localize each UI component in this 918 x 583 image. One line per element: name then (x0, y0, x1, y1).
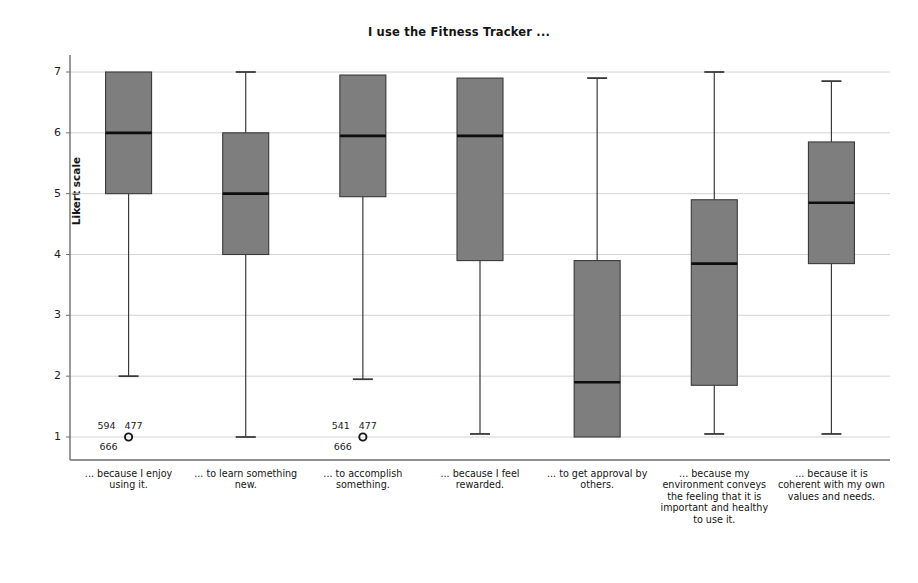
box-iqr-rect (457, 78, 503, 261)
outlier-label: 477 (125, 420, 143, 431)
y-tick-label: 2 (54, 369, 61, 382)
y-tick-label: 4 (54, 248, 61, 261)
x-category-label: ... because my environment conveys the f… (656, 468, 773, 525)
y-tick-label: 5 (54, 187, 61, 200)
outlier-label: 541 (332, 420, 350, 431)
y-tick-label: 3 (54, 308, 61, 321)
x-category-label: ... because I enjoy using it. (70, 468, 187, 491)
x-category-label: ... because I feel rewarded. (421, 468, 538, 491)
boxplot-box[interactable] (457, 78, 503, 434)
outlier-label: 666 (100, 441, 118, 452)
x-axis-category-labels: ... because I enjoy using it.... to lear… (70, 468, 890, 580)
box-iqr-rect (691, 200, 737, 386)
y-tick-label: 6 (54, 126, 61, 139)
boxplot-box[interactable] (574, 78, 620, 437)
boxplot-box[interactable] (808, 81, 854, 434)
boxplot-box[interactable]: 594477666 (98, 72, 152, 452)
x-category-label: ... to accomplish something. (304, 468, 421, 491)
outlier-label: 666 (334, 441, 352, 452)
boxplot-box[interactable] (691, 72, 737, 434)
boxplot-box[interactable] (223, 72, 269, 437)
x-category-label: ... to learn something new. (187, 468, 304, 491)
x-category-label: ... to get approval by others. (539, 468, 656, 491)
x-category-label: ... because it is coherent with my own v… (773, 468, 890, 502)
boxplot-box[interactable]: 541477666 (332, 75, 386, 452)
y-tick-label: 7 (54, 65, 61, 78)
boxplot-figure: I use the Fitness Tracker ... Likert sca… (0, 0, 918, 583)
y-tick-label: 1 (54, 430, 61, 443)
outlier-label: 594 (98, 420, 116, 431)
outlier-label: 477 (359, 420, 377, 431)
box-iqr-rect (574, 261, 620, 437)
